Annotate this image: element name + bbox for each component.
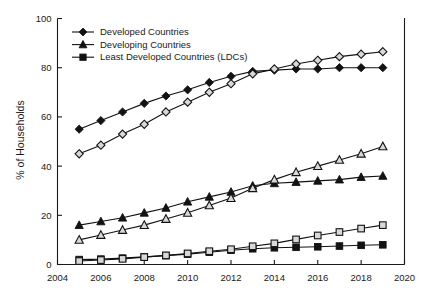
data-point-marker	[335, 53, 343, 61]
legend-label: Developing Countries	[100, 39, 191, 50]
data-point-marker	[141, 254, 148, 261]
data-point-marker	[140, 99, 148, 107]
data-point-marker	[379, 64, 387, 72]
data-point-marker	[380, 242, 387, 249]
x-tick-label: 2014	[264, 272, 285, 283]
data-point-marker	[249, 243, 256, 250]
data-point-marker	[184, 98, 192, 106]
data-point-marker	[358, 242, 365, 249]
data-point-marker	[380, 222, 387, 229]
x-tick-label: 2012	[220, 272, 241, 283]
data-point-marker	[162, 92, 170, 100]
data-point-marker	[205, 88, 213, 96]
data-point-marker	[271, 240, 278, 247]
data-point-marker	[314, 232, 321, 239]
legend-label: Developed Countries	[100, 26, 189, 37]
y-tick-label: 20	[41, 210, 52, 221]
data-point-marker	[227, 80, 235, 88]
x-tick-label: 2006	[90, 272, 111, 283]
y-tick-label: 100	[36, 13, 52, 24]
legend-item: Developing Countries	[72, 39, 191, 50]
data-point-marker	[140, 120, 148, 128]
data-point-marker	[118, 130, 126, 138]
data-point-marker	[228, 246, 235, 253]
chart-figure: % of Households 020406080100 20042006200…	[0, 0, 429, 301]
data-point-marker	[357, 64, 365, 72]
x-tick-label: 2016	[307, 272, 328, 283]
legend-item: Developed Countries	[72, 26, 189, 37]
y-axis-title: % of Households	[14, 100, 26, 179]
data-point-marker	[336, 243, 343, 250]
x-tick-label: 2004	[47, 272, 68, 283]
chart-legend: Developed CountriesDeveloping CountriesL…	[72, 26, 247, 62]
x-tick-label: 2020	[394, 272, 415, 283]
x-tick-label: 2018	[351, 272, 372, 283]
data-point-marker	[379, 172, 387, 180]
data-point-marker	[79, 28, 87, 36]
y-tick-label: 80	[41, 62, 52, 73]
legend-label: Least Developed Countries (LDCs)	[100, 51, 247, 62]
data-point-marker	[206, 248, 213, 255]
data-point-marker	[314, 243, 321, 250]
data-point-marker	[76, 258, 83, 265]
y-tick-label: 60	[41, 111, 52, 122]
data-point-marker	[75, 125, 83, 133]
chart-series	[75, 64, 387, 134]
data-point-marker	[119, 256, 126, 263]
data-point-marker	[379, 142, 387, 150]
data-point-marker	[97, 116, 105, 124]
data-point-marker	[335, 64, 343, 72]
data-point-marker	[184, 250, 191, 257]
y-tick-label: 0	[46, 259, 51, 270]
data-point-marker	[162, 108, 170, 116]
data-point-marker	[336, 229, 343, 236]
data-point-marker	[293, 244, 300, 251]
x-tick-label: 2008	[134, 272, 155, 283]
legend-item: Least Developed Countries (LDCs)	[72, 51, 247, 62]
data-point-marker	[184, 86, 192, 94]
data-point-marker	[205, 78, 213, 86]
line-chart: % of Households 020406080100 20042006200…	[0, 0, 429, 301]
y-tick-label: 40	[41, 161, 52, 172]
data-point-marker	[118, 108, 126, 116]
y-axis-title-label: % of Households	[14, 100, 26, 179]
data-point-marker	[379, 48, 387, 56]
data-point-marker	[163, 252, 170, 259]
data-point-marker	[75, 150, 83, 158]
chart-series	[75, 142, 387, 243]
data-point-marker	[98, 257, 105, 264]
data-point-marker	[357, 50, 365, 58]
x-tick-label: 2010	[177, 272, 198, 283]
data-point-marker	[358, 225, 365, 232]
data-point-marker	[97, 141, 105, 149]
data-point-marker	[292, 60, 300, 68]
data-point-marker	[314, 56, 322, 64]
series-layer	[75, 48, 387, 265]
data-point-marker	[293, 236, 300, 243]
data-point-marker	[80, 54, 86, 60]
data-point-marker	[314, 65, 322, 73]
